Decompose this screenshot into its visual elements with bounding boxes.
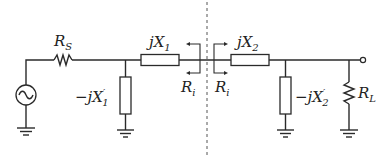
circuit-diagram: RS −jX′1 jX1 Ri Ri jX2 −j (0, 0, 390, 158)
right-intermediate-resistance-label: Ri (214, 78, 230, 98)
series-reactance-1 (141, 55, 179, 66)
shunt-reactance-2-label: −jX′2 (295, 87, 329, 108)
left-impedance-arrows-icon (186, 42, 200, 75)
series-reactance-1-label: jX1 (146, 33, 171, 53)
load-resistor-icon (344, 60, 354, 130)
ground-icon-source (17, 128, 35, 135)
left-intermediate-resistance-label: Ri (180, 78, 196, 98)
output-terminal-icon (360, 57, 365, 62)
shunt-reactance-2 (280, 60, 291, 130)
ground-icon-load (340, 130, 358, 137)
load-resistor-label: RL (357, 84, 376, 104)
ground-icon-shunt1 (117, 130, 134, 137)
shunt-reactance-1 (120, 60, 131, 130)
right-impedance-arrows-icon (214, 42, 228, 75)
shunt-reactance-1-label: −jX′1 (75, 87, 109, 108)
series-reactance-2 (231, 55, 269, 66)
ac-source-icon (16, 85, 36, 128)
source-resistor-label: RS (53, 32, 72, 52)
ground-icon-shunt2 (277, 130, 294, 137)
source-resistor-icon (54, 55, 72, 65)
series-reactance-2-label: jX2 (234, 33, 259, 53)
